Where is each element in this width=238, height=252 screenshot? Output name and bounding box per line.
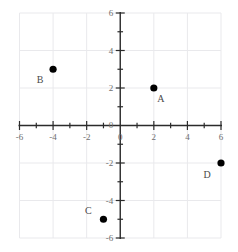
data-point-a — [150, 84, 157, 91]
y-tick-label: -2 — [106, 158, 114, 168]
x-tick-label: -2 — [83, 132, 91, 142]
x-tick-label: 4 — [185, 132, 190, 142]
data-points — [49, 66, 224, 223]
y-tick-label: 6 — [109, 8, 114, 18]
data-point-labels: ABCD — [37, 74, 211, 216]
x-axis-tick-labels: -6-4-20246 — [16, 132, 224, 142]
data-point-label-a: A — [157, 93, 165, 104]
x-tick-label: 6 — [219, 132, 224, 142]
y-tick-label: 4 — [109, 46, 114, 56]
data-point-b — [49, 66, 56, 73]
x-tick-label: -6 — [16, 132, 24, 142]
data-point-label-b: B — [37, 74, 44, 85]
y-tick-label: 2 — [109, 83, 114, 93]
y-tick-label: -6 — [106, 233, 114, 243]
y-tick-label: -4 — [106, 196, 114, 206]
axes — [19, 12, 223, 239]
x-tick-label: -4 — [49, 132, 57, 142]
data-point-d — [217, 159, 224, 166]
coordinate-plane-graph: -6-4-20246 6420-2-4-6 ABCD — [0, 0, 238, 252]
plot-area: -6-4-20246 6420-2-4-6 ABCD — [0, 0, 238, 252]
x-tick-label: 2 — [152, 132, 157, 142]
data-point-c — [100, 216, 107, 223]
y-tick-label: 0 — [109, 120, 114, 130]
data-point-label-c: C — [85, 205, 92, 216]
x-tick-label: 0 — [118, 132, 123, 142]
data-point-label-d: D — [203, 169, 210, 180]
